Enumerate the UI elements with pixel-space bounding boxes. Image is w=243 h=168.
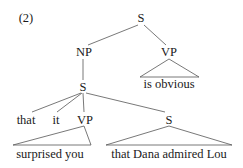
node-s-clause: S xyxy=(166,114,173,127)
node-vp-inner: VP xyxy=(77,114,93,127)
node-np: NP xyxy=(76,46,92,59)
node-vp-top: VP xyxy=(161,46,177,59)
triangle-vp-top xyxy=(140,59,199,77)
edge-s-it xyxy=(57,93,82,112)
triangle-s-clause xyxy=(106,126,232,145)
node-root-s: S xyxy=(138,12,145,25)
edge-s-vp-inner xyxy=(83,93,84,112)
yield-s-clause: that Dana admired Lou xyxy=(111,148,227,161)
tree-edges xyxy=(0,0,243,168)
yield-vp-top: is obvious xyxy=(143,78,194,91)
example-number: (2) xyxy=(19,12,34,25)
node-s-embedded: S xyxy=(80,81,87,94)
edge-s-that xyxy=(32,93,81,112)
leaf-it: it xyxy=(53,114,60,127)
edge-s-vp xyxy=(144,25,166,45)
edge-s-np xyxy=(88,25,138,45)
yield-vp-inner: surprised you xyxy=(16,148,84,161)
edge-s-s-clause xyxy=(86,93,165,112)
triangle-vp-inner xyxy=(13,126,91,145)
leaf-that: that xyxy=(17,114,36,127)
